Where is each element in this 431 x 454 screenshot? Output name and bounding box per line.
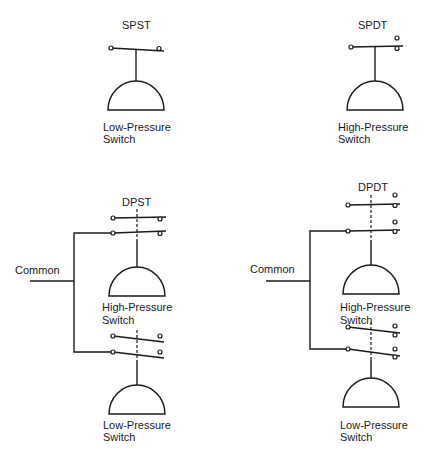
switch-label-line2: Switch — [338, 133, 370, 145]
common-bus — [310, 231, 348, 349]
switch-lever — [348, 230, 400, 231]
switch-lever — [348, 349, 400, 356]
switch-label-line2: Switch — [340, 314, 372, 326]
contact-terminal — [346, 229, 350, 233]
pressure-dome-icon — [343, 265, 399, 294]
contact-terminal — [395, 47, 399, 51]
common-label: Common — [15, 264, 60, 276]
common-bus — [74, 233, 113, 352]
contact-terminal — [158, 334, 162, 338]
contact-terminal — [111, 231, 115, 235]
contact-terminal — [393, 193, 397, 197]
contact-terminal — [393, 355, 397, 359]
switch-lever — [348, 204, 400, 205]
contact-terminal — [346, 325, 350, 329]
contact-terminal — [393, 220, 397, 224]
contact-terminal — [393, 324, 397, 328]
dpst-panel: DPST Common High-Pressure Switch Low-Pre… — [15, 196, 172, 443]
spdt-title: SPDT — [358, 19, 388, 31]
switch-lever — [111, 48, 164, 51]
contact-terminal — [157, 47, 161, 51]
switch-label-line2: Switch — [103, 133, 135, 145]
contact-terminal — [393, 333, 397, 337]
switch-lever — [348, 327, 400, 333]
dpst-title: DPST — [122, 196, 152, 208]
dpdt-title: DPDT — [358, 181, 388, 193]
pressure-dome-icon — [109, 385, 165, 414]
switch-label-line1: Low-Pressure — [103, 419, 171, 431]
switch-label-line2: Switch — [102, 314, 134, 326]
contact-terminal — [111, 350, 115, 354]
switch-label-line1: Low-Pressure — [103, 121, 171, 133]
contact-terminal — [349, 45, 353, 49]
switch-diagram: SPST Low-Pressure Switch SPDT High-Press… — [0, 0, 431, 454]
switch-label-line1: Low-Pressure — [340, 419, 408, 431]
switch-label-line1: High-Pressure — [338, 121, 408, 133]
contact-terminal — [346, 203, 350, 207]
spdt-panel: SPDT High-Pressure Switch — [338, 19, 408, 145]
contact-terminal — [395, 36, 399, 40]
switch-label-line1: High-Pressure — [340, 301, 410, 313]
contact-terminal — [393, 230, 397, 234]
contact-terminal — [111, 334, 115, 338]
switch-label-line1: High-Pressure — [102, 301, 172, 313]
contact-terminal — [393, 347, 397, 351]
switch-lever — [113, 336, 164, 342]
switch-lever — [113, 352, 164, 358]
spst-title: SPST — [122, 19, 151, 31]
spst-panel: SPST Low-Pressure Switch — [103, 19, 171, 145]
pressure-dome-icon — [109, 267, 165, 296]
contact-terminal — [109, 46, 113, 50]
contact-terminal — [158, 217, 162, 221]
pressure-dome-icon — [108, 81, 164, 110]
contact-terminal — [346, 347, 350, 351]
common-label: Common — [250, 263, 295, 275]
contact-terminal — [158, 350, 162, 354]
dpdt-panel: DPDT Common High-Pressure Switch Low-Pre… — [250, 181, 410, 443]
pressure-dome-icon — [343, 378, 399, 407]
contact-terminal — [393, 204, 397, 208]
contact-terminal — [111, 216, 115, 220]
switch-label-line2: Switch — [103, 431, 135, 443]
switch-label-line2: Switch — [340, 431, 372, 443]
contact-terminal — [158, 232, 162, 236]
pressure-dome-icon — [347, 81, 403, 110]
